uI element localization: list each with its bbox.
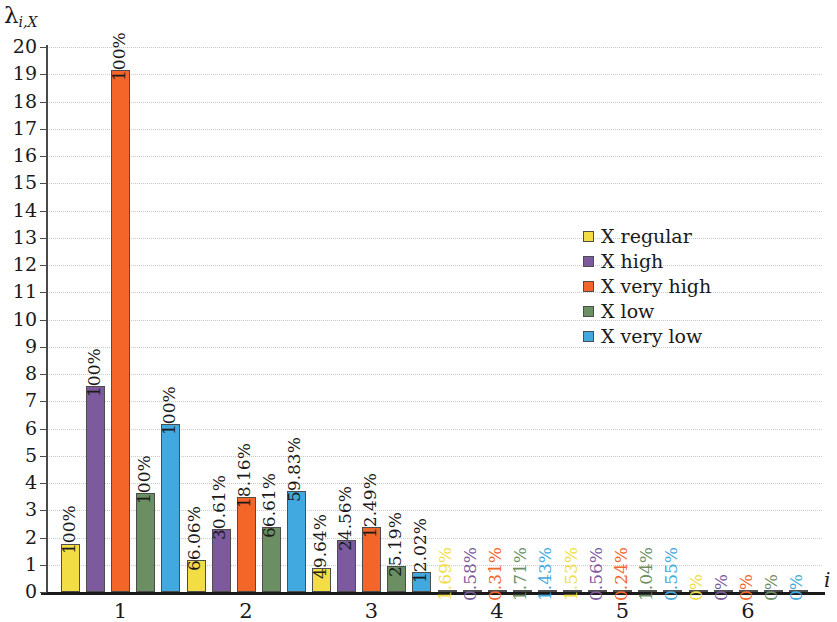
- y-tick-mark: [40, 429, 47, 430]
- x-tick-label: 1: [91, 599, 151, 622]
- x-tick-label: 3: [342, 599, 402, 622]
- bar-value-label: 0%: [688, 574, 705, 601]
- legend-item-label: X very low: [601, 324, 702, 349]
- legend-item: X regular: [583, 224, 711, 249]
- legend-item: X low: [583, 299, 711, 324]
- y-tick-label: 15: [3, 173, 37, 192]
- y-tick-mark: [40, 483, 47, 484]
- bar-value-label: 1.71%: [512, 546, 529, 600]
- bar: [161, 424, 180, 592]
- y-tick-mark: [40, 238, 47, 239]
- legend-swatch-icon: [583, 281, 594, 292]
- bar-value-label: 66.61%: [261, 473, 278, 538]
- bar-value-label: 0%: [763, 574, 780, 601]
- y-tick-mark: [40, 565, 47, 566]
- bar-value-label: 66.06%: [186, 506, 203, 571]
- bar-value-label: 0.24%: [613, 546, 630, 600]
- y-tick-mark: [40, 292, 47, 293]
- bar-value-label: 0.56%: [588, 546, 605, 600]
- y-tick-label: 18: [3, 92, 37, 111]
- bar-value-label: 1.43%: [537, 546, 554, 600]
- y-tick-label: 16: [3, 146, 37, 165]
- y-tick-mark: [40, 129, 47, 130]
- gridline: [47, 102, 822, 104]
- gridline: [47, 74, 822, 76]
- y-tick-mark: [40, 401, 47, 402]
- y-tick-mark: [40, 374, 47, 375]
- bar: [237, 497, 256, 592]
- bar-value-label: 0.58%: [462, 546, 479, 600]
- y-tick-label: 17: [3, 119, 37, 138]
- y-tick-label: 3: [3, 500, 37, 519]
- gridline: [47, 374, 822, 376]
- y-tick-mark: [40, 211, 47, 212]
- bar-value-label: 100%: [86, 349, 103, 398]
- y-tick-label: 7: [3, 391, 37, 410]
- legend-item-label: X very high: [601, 274, 711, 299]
- legend-item: X very high: [583, 274, 711, 299]
- legend-swatch-icon: [583, 331, 594, 342]
- y-tick-label: 10: [3, 310, 37, 329]
- y-tick-mark: [40, 265, 47, 266]
- y-tick-label: 5: [3, 446, 37, 465]
- y-tick-label: 20: [3, 37, 37, 56]
- bar-value-label: 24.56%: [337, 486, 354, 551]
- bar-value-label: 100%: [136, 455, 153, 504]
- bar-value-label: 0%: [713, 574, 730, 601]
- y-tick-mark: [40, 156, 47, 157]
- bar: [86, 386, 105, 592]
- legend-item: X high: [583, 249, 711, 274]
- y-tick-label: 4: [3, 473, 37, 492]
- bar-value-label: 12.02%: [412, 518, 429, 583]
- gridline: [47, 129, 822, 131]
- x-tick-label: 4: [467, 599, 527, 622]
- x-tick-label: 6: [718, 599, 778, 622]
- y-tick-label: 1: [3, 555, 37, 574]
- y-tick-mark: [40, 347, 47, 348]
- y-tick-label: 19: [3, 64, 37, 83]
- y-tick-mark: [40, 456, 47, 457]
- bar-value-label: 1.53%: [563, 546, 580, 600]
- y-tick-label: 6: [3, 419, 37, 438]
- bar: [287, 491, 306, 592]
- legend-item-label: X low: [601, 299, 654, 324]
- bar-value-label: 100%: [161, 387, 178, 436]
- y-tick-mark: [40, 183, 47, 184]
- bar-value-label: 0%: [738, 574, 755, 601]
- gridline: [47, 156, 822, 158]
- y-tick-mark: [40, 102, 47, 103]
- y-axis-label-symbol: λ: [4, 2, 19, 28]
- legend-swatch-icon: [583, 231, 594, 242]
- bar-value-label: 59.83%: [286, 437, 303, 502]
- x-tick-label: 2: [216, 599, 276, 622]
- gridline: [47, 183, 822, 185]
- y-tick-label: 9: [3, 337, 37, 356]
- y-tick-label: 2: [3, 528, 37, 547]
- y-tick-label: 13: [3, 228, 37, 247]
- bar-value-label: 49.64%: [312, 514, 329, 579]
- gridline: [47, 47, 822, 49]
- x-axis-line: [41, 592, 825, 595]
- bar-value-label: 12.49%: [362, 473, 379, 538]
- y-tick-mark: [40, 320, 47, 321]
- y-tick-label: 11: [3, 282, 37, 301]
- y-tick-mark: [40, 592, 47, 593]
- bar-value-label: 0.31%: [487, 546, 504, 600]
- gridline: [47, 211, 822, 213]
- y-tick-mark: [40, 74, 47, 75]
- legend-swatch-icon: [583, 256, 594, 267]
- y-tick-label: 14: [3, 201, 37, 220]
- y-axis-label-subscript: i,X: [19, 14, 38, 30]
- y-tick-mark: [40, 538, 47, 539]
- x-axis-label: i: [824, 568, 830, 592]
- bar-value-label: 1.04%: [638, 546, 655, 600]
- legend-swatch-icon: [583, 306, 594, 317]
- y-tick-mark: [40, 47, 47, 48]
- bar-value-label: 100%: [111, 33, 128, 82]
- bar-value-label: 18.16%: [236, 443, 253, 508]
- bar: [111, 70, 130, 592]
- y-tick-label: 0: [3, 582, 37, 601]
- bar-value-label: 25.19%: [387, 512, 404, 577]
- legend-item: X very low: [583, 324, 711, 349]
